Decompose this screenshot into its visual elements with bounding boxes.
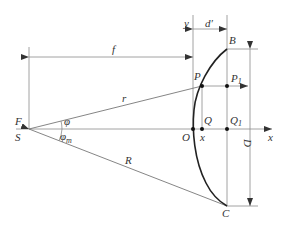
label-x-axis: x: [267, 131, 273, 143]
label-f-point: F: [14, 115, 22, 127]
label-q1: Q1: [230, 114, 242, 128]
label-phi: φ: [64, 115, 70, 127]
label-y: y: [183, 17, 189, 29]
label-p1: P1: [230, 72, 242, 86]
point-p: [200, 84, 204, 88]
label-o: O: [182, 131, 190, 143]
label-x-point: x: [199, 131, 205, 143]
label-c: C: [222, 207, 230, 219]
phi-arc: [61, 121, 62, 129]
label-q: Q: [204, 114, 212, 126]
label-r: r: [122, 92, 127, 104]
label-d: D: [242, 138, 254, 147]
diagram-canvas: f y d′ B P P1 r F S φ φm Q Q1 O x x D R …: [0, 0, 287, 229]
label-phi-m: φm: [60, 130, 72, 145]
label-f: f: [112, 43, 117, 55]
point-p1: [225, 84, 229, 88]
point-q1: [225, 127, 229, 131]
label-b: B: [229, 34, 236, 46]
ray-r: [29, 86, 202, 129]
label-d-prime: d′: [205, 17, 214, 29]
label-p: P: [193, 70, 201, 82]
geometry-diagram: f y d′ B P P1 r F S φ φm Q Q1 O x x D R …: [0, 0, 287, 229]
point-o: [191, 127, 195, 131]
label-R: R: [124, 154, 132, 166]
ray-R: [29, 129, 227, 206]
label-s: S: [15, 131, 21, 143]
